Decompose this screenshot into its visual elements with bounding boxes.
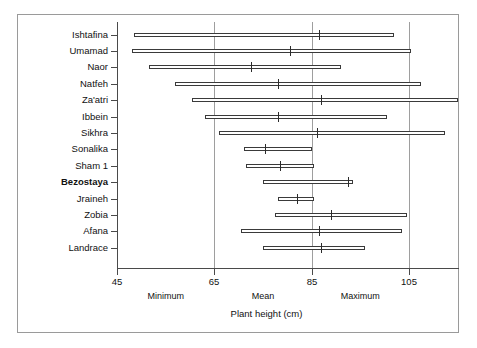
mean-tick: [319, 30, 320, 40]
range-bar: [241, 229, 402, 233]
mean-tick: [280, 161, 281, 171]
range-bar: [278, 197, 315, 201]
range-bar: [134, 33, 394, 37]
y-axis-label: Ishtafina: [72, 30, 108, 40]
y-tick-ishtafina: [111, 35, 118, 36]
mean-tick: [290, 46, 291, 56]
mean-tick: [321, 243, 322, 253]
y-tick-landrace: [111, 248, 118, 249]
range-bar: [175, 82, 421, 86]
y-axis-label: Afana: [83, 226, 108, 236]
x-tick-label: 45: [97, 276, 137, 287]
y-tick-jraineh: [111, 199, 118, 200]
y-tick-zobia: [111, 215, 118, 216]
y-tick-sonalika: [111, 149, 118, 150]
x-tick-65: [214, 269, 215, 275]
zone-label-mean: Mean: [218, 291, 308, 301]
y-axis-label: Sikhra: [81, 128, 108, 138]
x-tick-label: 105: [389, 276, 429, 287]
y-axis-label: Natfeh: [80, 79, 108, 89]
x-tick-45: [117, 269, 118, 275]
mean-tick: [251, 62, 252, 72]
y-axis-label: Bezostaya: [61, 177, 108, 187]
mean-tick: [319, 226, 320, 236]
range-bar: [149, 65, 341, 69]
mean-tick: [348, 177, 349, 187]
mean-tick: [278, 79, 279, 89]
y-tick-natfeh: [111, 84, 118, 85]
range-bar: [275, 213, 406, 217]
y-tick-bezostaya: [111, 182, 118, 183]
range-bar: [219, 131, 445, 135]
plot-area: IshtafinaUmamadNaorNatfehZa'atriIbbeinSi…: [0, 0, 477, 348]
gridline-105: [409, 22, 410, 268]
y-axis-label: Landrace: [68, 243, 108, 253]
y-axis-label: Jraineh: [77, 194, 108, 204]
y-axis-label: Sonalika: [72, 144, 108, 154]
mean-tick: [317, 128, 318, 138]
y-axis-label: Zobia: [84, 210, 108, 220]
x-tick-85: [312, 269, 313, 275]
range-bar: [263, 246, 365, 250]
mean-tick: [278, 112, 279, 122]
zone-label-minimum: Minimum: [121, 291, 211, 301]
x-tick-105: [409, 269, 410, 275]
chart-page: IshtafinaUmamadNaorNatfehZa'atriIbbeinSi…: [0, 0, 477, 348]
y-tick-naor: [111, 67, 118, 68]
zone-label-maximum: Maximum: [315, 291, 405, 301]
range-bar: [263, 180, 353, 184]
y-tick-afana: [111, 231, 118, 232]
mean-tick: [297, 194, 298, 204]
y-axis-label: Umamad: [69, 46, 108, 56]
y-tick-umamad: [111, 51, 118, 52]
y-tick-za-atri: [111, 100, 118, 101]
x-axis-line: [117, 268, 459, 269]
y-axis-label: Ibbein: [82, 112, 108, 122]
y-axis-label: Naor: [87, 62, 108, 72]
range-bar: [192, 98, 457, 102]
mean-tick: [321, 95, 322, 105]
y-tick-ibbein: [111, 117, 118, 118]
y-axis-label: Za'atri: [82, 95, 108, 105]
y-tick-sham-1: [111, 166, 118, 167]
x-tick-label: 85: [292, 276, 332, 287]
x-axis-title: Plant height (cm): [0, 308, 477, 319]
mean-tick: [331, 210, 332, 220]
gridline-65: [214, 22, 215, 268]
range-bar: [244, 147, 312, 151]
y-axis-label: Sham 1: [75, 161, 108, 171]
y-tick-sikhra: [111, 133, 118, 134]
x-tick-label: 65: [194, 276, 234, 287]
range-bar: [132, 49, 412, 53]
mean-tick: [265, 144, 266, 154]
x-axis-title-text: Plant height (cm): [231, 308, 303, 319]
range-bar: [205, 115, 388, 119]
